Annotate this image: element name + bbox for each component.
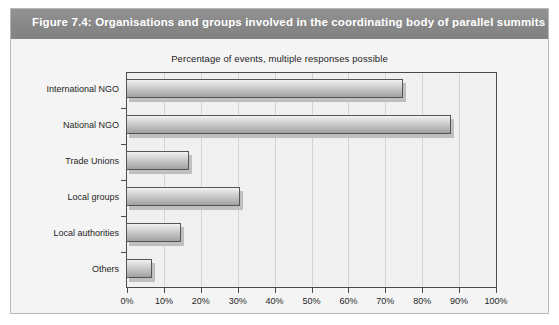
x-axis-tick (238, 288, 239, 293)
x-axis-label: 80% (413, 296, 431, 306)
x-axis-tick (201, 288, 202, 293)
x-axis-label: 70% (376, 296, 394, 306)
y-axis-tick (121, 144, 126, 145)
y-axis-label: Trade Unions (65, 156, 119, 166)
x-axis-label: 0% (120, 296, 133, 306)
bar-group (126, 115, 497, 139)
x-axis-label: 90% (450, 296, 468, 306)
x-axis-tick (348, 288, 349, 293)
x-axis-tick (385, 288, 386, 293)
y-axis-labels: International NGONational NGOTrade Union… (11, 72, 119, 288)
x-axis-tick (312, 288, 313, 293)
bar (126, 187, 240, 206)
x-axis-label: 60% (339, 296, 357, 306)
bar (126, 151, 189, 170)
y-axis-label: Local groups (67, 192, 119, 202)
y-axis-tick (121, 180, 126, 181)
y-axis-tick (121, 108, 126, 109)
x-axis-tick (422, 288, 423, 293)
y-axis-label: International NGO (46, 84, 119, 94)
figure-title: Figure 7.4: Organisations and groups inv… (32, 16, 545, 28)
figure-container: Figure 7.4: Organisations and groups inv… (0, 0, 559, 325)
x-axis-label: 50% (302, 296, 320, 306)
bar (126, 259, 152, 278)
y-axis-label: Others (92, 264, 119, 274)
x-axis-tick (275, 288, 276, 293)
y-axis-label: Local authorities (53, 228, 119, 238)
bar-group (126, 151, 497, 175)
y-axis-label: National NGO (63, 120, 119, 130)
x-axis-label: 100% (484, 296, 507, 306)
bar (126, 79, 403, 98)
y-axis-tick (121, 216, 126, 217)
chart-subtitle: Percentage of events, multiple responses… (11, 53, 548, 64)
bar-group (126, 187, 497, 211)
x-axis-tick (164, 288, 165, 293)
x-axis-tick (127, 288, 128, 293)
bar-group (126, 223, 497, 247)
bar (126, 223, 181, 242)
x-axis-label: 10% (155, 296, 173, 306)
x-axis-tick (496, 288, 497, 293)
x-axis-label: 20% (192, 296, 210, 306)
y-axis-tick (121, 252, 126, 253)
x-axis-label: 40% (266, 296, 284, 306)
bar-group (126, 79, 497, 103)
bar (126, 115, 451, 134)
bars-layer (126, 72, 497, 288)
bar-group (126, 259, 497, 283)
x-axis-tick (459, 288, 460, 293)
x-axis-label: 30% (229, 296, 247, 306)
figure-title-banner: Figure 7.4: Organisations and groups inv… (11, 9, 548, 39)
chart-area: Percentage of events, multiple responses… (11, 39, 548, 313)
